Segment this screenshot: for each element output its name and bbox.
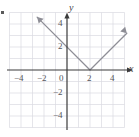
y-tick-label-neg2: −2 (53, 88, 63, 97)
x-tick-label-neg2: −2 (37, 74, 47, 83)
y-tick-label-2: 2 (58, 42, 63, 51)
x-tick-label-2: 2 (87, 74, 92, 83)
y-tick-label-neg4: −4 (53, 111, 63, 120)
x-tick-label-zero: 0 (59, 74, 64, 83)
x-axis (7, 67, 133, 72)
coordinate-plane-svg (0, 0, 139, 137)
y-axis-label: y (69, 3, 73, 12)
x-tick-label-4: 4 (110, 74, 115, 83)
x-axis-label: x (129, 64, 133, 73)
y-axis-arrowhead (64, 13, 69, 19)
x-tick-label-neg4: −4 (14, 74, 24, 83)
y-axis (64, 13, 69, 131)
y-tick-label-4: 4 (58, 19, 63, 28)
graph-figure: x y −4 −2 0 2 4 4 2 −2 −4 (0, 0, 139, 137)
